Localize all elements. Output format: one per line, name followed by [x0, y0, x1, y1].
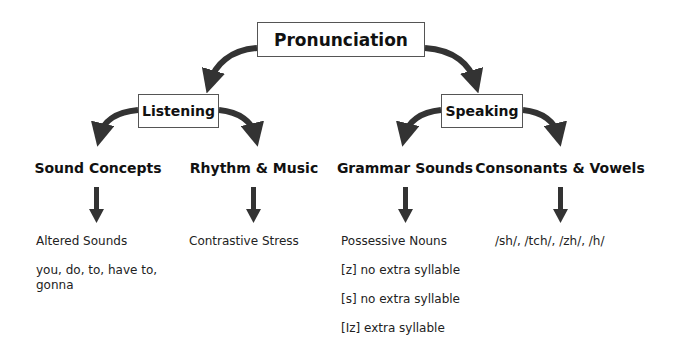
detail-text: [z] no extra syllable — [341, 263, 460, 278]
down-arrow-icon — [246, 187, 261, 223]
detail-text: Altered Sounds — [36, 234, 127, 249]
down-arrow-icon — [398, 187, 413, 223]
topic-consonants-vowels: Consonants & Vowels — [475, 160, 644, 176]
branch-label: Listening — [142, 103, 215, 119]
curved-arrow-icon — [523, 110, 558, 135]
detail-text: [Iz] extra syllable — [341, 321, 445, 336]
root-label: Pronunciation — [274, 30, 408, 50]
curved-arrow-icon — [405, 110, 441, 135]
down-arrow-icon — [553, 187, 568, 223]
branch-label: Speaking — [445, 103, 518, 119]
detail-text: [s] no extra syllable — [341, 292, 460, 307]
root-node-pronunciation: Pronunciation — [257, 22, 425, 57]
branch-node-listening: Listening — [138, 94, 219, 128]
topic-rhythm-music: Rhythm & Music — [190, 160, 318, 176]
branch-node-speaking: Speaking — [441, 94, 523, 128]
curved-arrow-icon — [425, 48, 475, 82]
down-arrow-icon — [89, 187, 104, 223]
curved-arrow-icon — [100, 110, 138, 135]
curved-arrow-icon — [210, 48, 257, 82]
detail-text: Possessive Nouns — [341, 234, 447, 249]
detail-text: Contrastive Stress — [189, 234, 299, 249]
detail-text: /sh/, /tch/, /zh/, /h/ — [495, 234, 605, 249]
curved-arrow-icon — [219, 110, 255, 135]
topic-sound-concepts: Sound Concepts — [34, 160, 161, 176]
detail-text: you, do, to, have to, gonna — [36, 263, 166, 293]
topic-grammar-sounds: Grammar Sounds — [337, 160, 473, 176]
